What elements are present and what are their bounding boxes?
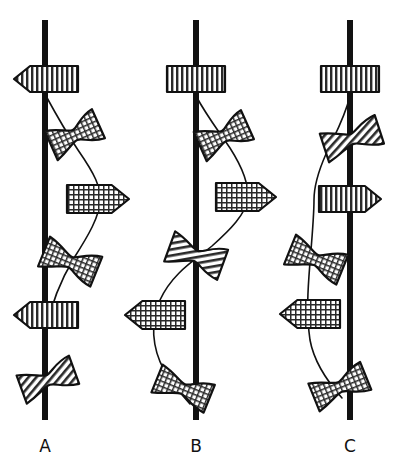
diagram-canvas: ABC [0, 0, 398, 464]
marker-C-1-banded-block-plain [321, 66, 379, 92]
marker-fill [167, 66, 225, 92]
marker-fill [321, 66, 379, 92]
chromosome-comparison-figure: ABC [0, 0, 398, 464]
marker-A-5-banded-block-left-arrow-lower [14, 302, 78, 328]
marker-A-1-banded-block-left-arrow [14, 66, 78, 92]
column-label-B: B [190, 436, 202, 456]
marker-B-1-banded-block-plain [167, 66, 225, 92]
column-label-A: A [39, 436, 51, 456]
column-label-C: C [344, 436, 356, 456]
